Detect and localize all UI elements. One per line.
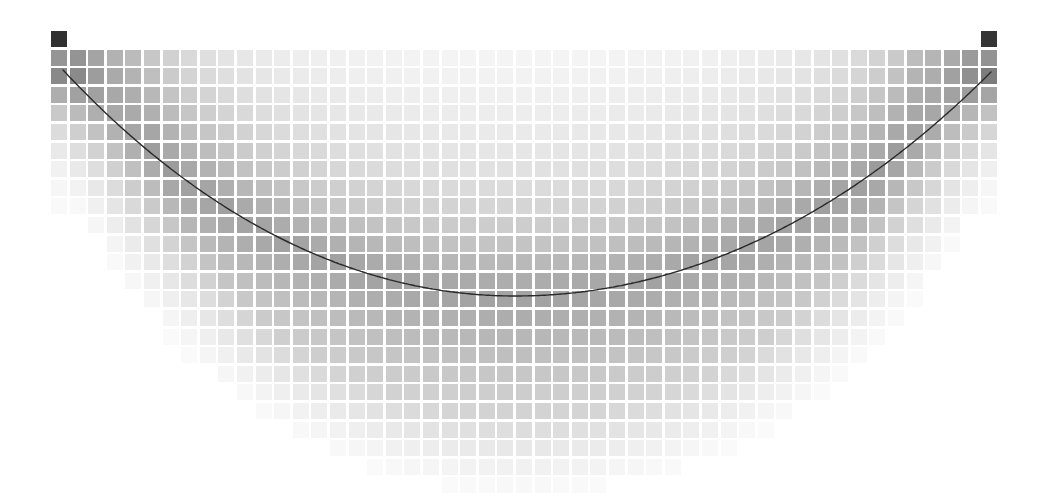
heatmap-chart — [0, 0, 1045, 499]
heatmap-cell — [442, 180, 458, 196]
heatmap-cell — [460, 161, 476, 177]
heatmap-cell — [330, 105, 346, 121]
heatmap-cell — [758, 273, 774, 289]
heatmap-cell — [367, 254, 383, 270]
heatmap-cell — [665, 87, 681, 103]
heatmap-cell — [888, 124, 904, 140]
heatmap-cell — [795, 236, 811, 252]
heatmap-cell — [572, 87, 588, 103]
heatmap-cell — [665, 198, 681, 214]
heatmap-cell — [683, 384, 699, 400]
heatmap-cell — [609, 143, 625, 159]
heatmap-cell — [404, 68, 420, 84]
heatmap-cell — [795, 329, 811, 345]
heatmap-cell — [795, 68, 811, 84]
heatmap-cell — [683, 329, 699, 345]
heatmap-cell — [665, 440, 681, 456]
heatmap-cell — [572, 403, 588, 419]
heatmap-cell — [423, 422, 439, 438]
heatmap-cell — [609, 422, 625, 438]
heatmap-cell — [814, 254, 830, 270]
heatmap-cell — [572, 291, 588, 307]
heatmap-cell — [683, 440, 699, 456]
heatmap-cell — [832, 366, 848, 382]
heatmap-cell — [218, 217, 234, 233]
heatmap-cell — [479, 477, 495, 493]
heatmap-cell — [497, 180, 513, 196]
heatmap-cell — [907, 50, 923, 66]
heatmap-cell — [851, 273, 867, 289]
heatmap-cell — [888, 68, 904, 84]
heatmap-cell — [795, 273, 811, 289]
heatmap-cell — [70, 198, 86, 214]
heatmap-cell — [535, 422, 551, 438]
heatmap-cell — [256, 291, 272, 307]
heatmap-cell — [497, 198, 513, 214]
heatmap-cell — [516, 161, 532, 177]
heatmap-cell — [925, 198, 941, 214]
heatmap-cell — [795, 198, 811, 214]
heatmap-cell — [665, 384, 681, 400]
heatmap-cell — [628, 143, 644, 159]
heatmap-cell — [869, 254, 885, 270]
heatmap-cell — [88, 105, 104, 121]
heatmap-cell — [293, 143, 309, 159]
heatmap-cell — [460, 198, 476, 214]
heatmap-cell — [460, 440, 476, 456]
heatmap-cell — [256, 329, 272, 345]
heatmap-cell — [851, 347, 867, 363]
heatmap-cell — [479, 68, 495, 84]
heatmap-cells — [51, 31, 997, 493]
heatmap-cell — [218, 347, 234, 363]
heatmap-cell — [814, 87, 830, 103]
heatmap-cell — [479, 198, 495, 214]
heatmap-cell — [330, 403, 346, 419]
heatmap-cell — [739, 366, 755, 382]
heatmap-cell — [646, 347, 662, 363]
heatmap-cell — [869, 310, 885, 326]
heatmap-cell — [925, 87, 941, 103]
heatmap-cell — [274, 384, 290, 400]
heatmap-cell — [907, 124, 923, 140]
heatmap-cell — [553, 50, 569, 66]
heatmap-cell — [330, 384, 346, 400]
heatmap-cell — [535, 366, 551, 382]
heatmap-cell — [944, 217, 960, 233]
heatmap-cell — [814, 68, 830, 84]
heatmap-cell — [274, 347, 290, 363]
heatmap-cell — [367, 236, 383, 252]
heatmap-cell — [367, 161, 383, 177]
heatmap-cell — [535, 143, 551, 159]
heatmap-cell — [553, 161, 569, 177]
heatmap-cell — [293, 273, 309, 289]
heatmap-cell — [144, 198, 160, 214]
heatmap-cell — [572, 50, 588, 66]
heatmap-cell — [349, 291, 365, 307]
heatmap-cell — [497, 143, 513, 159]
heatmap-cell — [423, 273, 439, 289]
heatmap-cell — [237, 161, 253, 177]
heatmap-cell — [293, 50, 309, 66]
heatmap-cell — [665, 180, 681, 196]
heatmap-cell — [553, 124, 569, 140]
heatmap-cell — [925, 254, 941, 270]
heatmap-cell — [107, 105, 123, 121]
heatmap-cell — [535, 161, 551, 177]
heatmap-cell — [981, 124, 997, 140]
heatmap-cell — [88, 124, 104, 140]
heatmap-cell — [330, 347, 346, 363]
heatmap-cell — [386, 198, 402, 214]
heatmap-cell — [497, 403, 513, 419]
heatmap-cell — [88, 161, 104, 177]
heatmap-cell — [516, 143, 532, 159]
heatmap-cell — [404, 180, 420, 196]
heatmap-cell — [479, 87, 495, 103]
heatmap-cell — [628, 422, 644, 438]
heatmap-cell — [349, 310, 365, 326]
heatmap-cell — [423, 310, 439, 326]
heatmap-cell — [237, 105, 253, 121]
heatmap-cell — [367, 403, 383, 419]
heatmap-cell — [758, 198, 774, 214]
heatmap-cell — [256, 366, 272, 382]
heatmap-cell — [609, 440, 625, 456]
